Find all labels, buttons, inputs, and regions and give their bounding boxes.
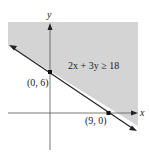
inequality-graph: y x (0, 6) (9, 0) 2x + 3y ≥ 18 [0, 0, 149, 158]
point-9-0 [107, 111, 111, 115]
point-0-6 [48, 70, 52, 74]
inequality-label: 2x + 3y ≥ 18 [68, 60, 119, 71]
x-axis-label: x [139, 107, 145, 118]
y-axis-label: y [46, 9, 52, 20]
point-label-9-0: (9, 0) [85, 115, 107, 127]
point-label-0-6: (0, 6) [27, 77, 49, 89]
shaded-region [8, 22, 138, 126]
